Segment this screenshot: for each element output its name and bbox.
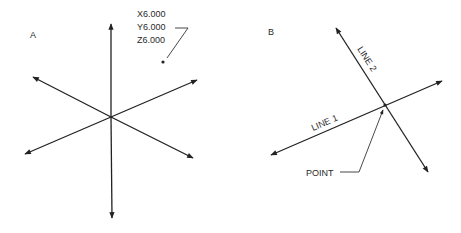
line-2-label: LINE 2 bbox=[355, 45, 378, 74]
panel-a: A X6.000 Y6.000 Z6.000 bbox=[25, 9, 197, 218]
axis-lower-left bbox=[25, 117, 111, 154]
point-leader-line bbox=[340, 110, 383, 172]
intersection-point bbox=[383, 103, 386, 106]
axis-down bbox=[111, 117, 112, 218]
coord-y-label: Y6.000 bbox=[137, 22, 166, 32]
diagram-canvas: A X6.000 Y6.000 Z6.000 B LINE 1 LINE 2 P… bbox=[0, 0, 461, 233]
line-2 bbox=[336, 28, 428, 172]
point-label: POINT bbox=[306, 168, 334, 178]
coord-leader-line bbox=[167, 28, 188, 58]
coord-x-label: X6.000 bbox=[137, 9, 166, 19]
line-1-label: LINE 1 bbox=[310, 113, 339, 133]
coord-point-dot bbox=[161, 60, 164, 63]
panel-b: B LINE 1 LINE 2 POINT bbox=[268, 27, 442, 178]
panel-b-label: B bbox=[268, 27, 274, 37]
panel-a-label: A bbox=[30, 30, 36, 40]
axis-lower-right bbox=[111, 117, 193, 158]
line-1 bbox=[271, 81, 442, 155]
axis-upper-left bbox=[33, 77, 111, 117]
coord-z-label: Z6.000 bbox=[137, 35, 165, 45]
axis-upper-right bbox=[111, 80, 197, 117]
